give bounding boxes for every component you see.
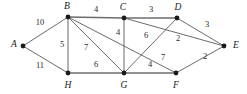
edge-weight-g-h: 6	[94, 59, 98, 69]
vertex-labels-group: ABCDEFGH	[10, 1, 239, 90]
graph-canvas: 1011457734263246 ABCDEFGH	[0, 0, 247, 94]
vertex-label-h: H	[64, 80, 73, 90]
edge-weight-d-g: 6	[144, 30, 148, 40]
vertex-label-c: C	[120, 2, 127, 12]
graph-vertex-f	[174, 71, 179, 76]
vertices-group	[21, 15, 227, 76]
vertex-label-f: F	[172, 80, 179, 90]
edge-weight-d-e: 3	[205, 19, 209, 29]
edge-weight-c-g: 4	[116, 27, 121, 37]
vertex-label-g: G	[121, 80, 128, 90]
edges-group	[23, 17, 224, 73]
weighted-graph-figure: 1011457734263246 ABCDEFGH	[0, 0, 247, 94]
graph-vertex-d	[175, 16, 180, 21]
vertex-label-d: D	[174, 2, 182, 12]
vertex-label-b: B	[64, 1, 70, 11]
edge-weights-group: 1011457734263246	[36, 4, 209, 70]
edge-weight-a-b: 10	[36, 17, 45, 27]
graph-edge-b-c	[68, 17, 124, 18]
vertex-label-a: A	[10, 39, 17, 49]
graph-edge-d-e	[177, 18, 224, 46]
edge-weight-b-f: 7	[161, 52, 165, 62]
edge-weight-c-d: 3	[149, 4, 153, 14]
edge-weight-b-h: 5	[60, 39, 64, 49]
edge-weight-e-f: 2	[203, 51, 207, 61]
graph-vertex-b	[66, 15, 71, 20]
vertex-label-e: E	[232, 40, 239, 50]
graph-edge-e-f	[176, 46, 224, 73]
graph-vertex-h	[66, 71, 71, 76]
edge-weight-a-h: 11	[36, 60, 44, 70]
graph-vertex-a	[21, 44, 26, 49]
graph-vertex-e	[222, 44, 227, 49]
graph-edge-a-h	[23, 46, 68, 73]
graph-vertex-c	[122, 16, 127, 21]
graph-vertex-g	[122, 71, 127, 76]
edge-weight-b-g: 7	[84, 42, 88, 52]
edge-weight-b-c: 4	[94, 4, 99, 14]
edge-weight-c-e: 2	[176, 33, 180, 43]
